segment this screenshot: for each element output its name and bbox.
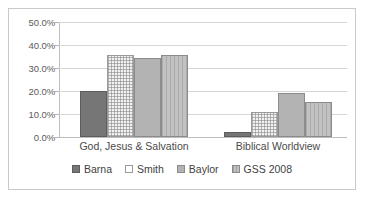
y-axis-tick-label: 40.0% [11,40,55,51]
legend-label: Smith [137,163,164,175]
legend-swatch-icon [232,165,240,173]
legend-swatch-icon [177,165,185,173]
x-axis-label-1: Biblical Worldview [209,140,347,152]
bar-smith[interactable] [107,55,134,137]
legend-label: Baylor [189,163,219,175]
x-axis-label-0: God, Jesus & Salvation [59,140,209,152]
bar-smith[interactable] [251,112,278,137]
y-axis-tick-label: 0.0% [11,132,55,143]
legend-label: Barna [84,163,112,175]
legend-item-barna[interactable]: Barna [72,163,112,175]
bar-baylor[interactable] [134,58,161,137]
legend-swatch-icon [125,165,133,173]
x-axis-labels: God, Jesus & Salvation Biblical Worldvie… [59,140,347,160]
y-axis-tick-label: 50.0% [11,17,55,28]
y-axis-tick-label: 20.0% [11,86,55,97]
bar-baylor[interactable] [278,93,305,137]
bar-group-biblical-worldview [209,22,347,137]
y-axis-labels: 0.0%10.0%20.0%30.0%40.0%50.0% [11,9,55,189]
legend-item-gss-2008[interactable]: GSS 2008 [232,163,292,175]
legend-label: GSS 2008 [244,163,292,175]
bar-gss-2008[interactable] [305,102,332,137]
plot-area [59,22,347,137]
legend-item-baylor[interactable]: Baylor [177,163,219,175]
legend-swatch-icon [72,165,80,173]
bar-gss-2008[interactable] [161,55,188,137]
chart-legend: BarnaSmithBaylorGSS 2008 [9,163,355,175]
legend-item-smith[interactable]: Smith [125,163,164,175]
chart-container: 0.0%10.0%20.0%30.0%40.0%50.0% God, Jesus… [8,8,356,190]
bar-group-god-jesus-salvation [59,22,209,137]
plot-wrapper: 0.0%10.0%20.0%30.0%40.0%50.0% God, Jesus… [9,9,355,189]
y-axis-tick-label: 30.0% [11,63,55,74]
gridline [59,137,347,138]
bar-barna[interactable] [80,91,107,137]
y-axis-tick-label: 10.0% [11,109,55,120]
bar-barna[interactable] [224,132,251,137]
